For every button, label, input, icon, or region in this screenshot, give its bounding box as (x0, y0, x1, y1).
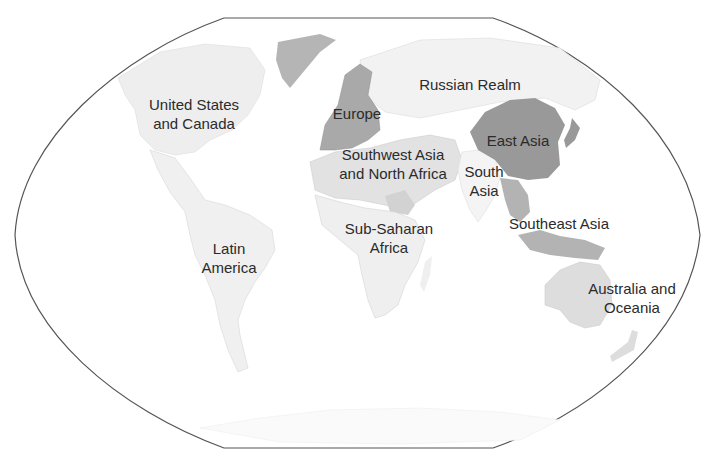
label-line: America (201, 258, 256, 277)
label-line: East Asia (487, 131, 550, 150)
label-line: Australia and (588, 279, 676, 298)
label-united-states-and-canada: United States and Canada (149, 95, 239, 133)
label-line: South (464, 162, 503, 181)
label-line: Southwest Asia (339, 145, 447, 164)
label-line: and Canada (149, 114, 239, 133)
label-line: Russian Realm (419, 75, 521, 94)
label-europe: Europe (333, 104, 381, 123)
label-sub-saharan-africa: Sub-Saharan Africa (345, 219, 433, 257)
label-line: and North Africa (339, 164, 447, 183)
label-line: Asia (464, 181, 503, 200)
label-line: Oceania (588, 298, 676, 317)
label-line: Africa (345, 238, 433, 257)
label-southeast-asia: Southeast Asia (509, 214, 609, 233)
label-australia-and-oceania: Australia and Oceania (588, 279, 676, 317)
label-south-asia: South Asia (464, 162, 503, 200)
label-line: Latin (201, 239, 256, 258)
label-russian-realm: Russian Realm (419, 75, 521, 94)
label-east-asia: East Asia (487, 131, 550, 150)
label-southwest-asia-and-north-africa: Southwest Asia and North Africa (339, 145, 447, 183)
label-latin-america: Latin America (201, 239, 256, 277)
label-line: United States (149, 95, 239, 114)
label-line: Europe (333, 104, 381, 123)
label-line: Southeast Asia (509, 214, 609, 233)
label-line: Sub-Saharan (345, 219, 433, 238)
